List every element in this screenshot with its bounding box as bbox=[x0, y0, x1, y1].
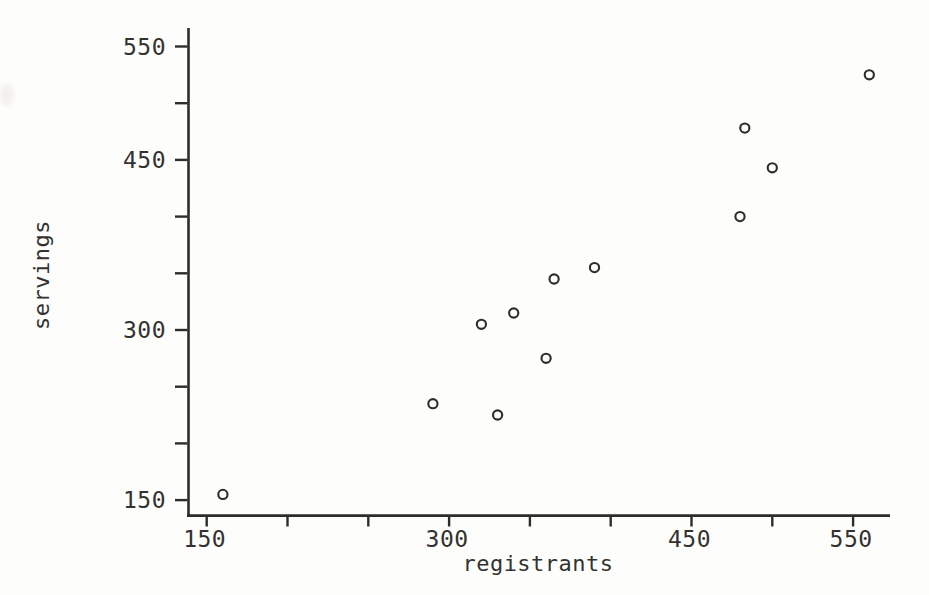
scatter-plot-figure: 150300450550 150300450550 registrants se… bbox=[0, 0, 929, 595]
x-tick-label-450: 450 bbox=[668, 526, 711, 552]
y-axis-tick-labels: 150300450550 bbox=[123, 34, 166, 514]
x-axis-ticks bbox=[207, 516, 853, 527]
x-tick-label-300: 300 bbox=[426, 526, 469, 552]
data-point-10 bbox=[768, 163, 777, 172]
x-axis-title: registrants bbox=[462, 551, 613, 576]
y-tick-label-150: 150 bbox=[123, 487, 166, 513]
data-point-11 bbox=[865, 70, 874, 79]
data-point-1 bbox=[428, 399, 437, 408]
data-point-0 bbox=[218, 490, 227, 499]
y-tick-label-300: 300 bbox=[123, 317, 166, 343]
y-tick-label-550: 550 bbox=[123, 34, 166, 60]
axes bbox=[187, 28, 890, 517]
data-point-9 bbox=[740, 124, 749, 133]
data-point-8 bbox=[735, 212, 744, 221]
scan-artifact bbox=[0, 84, 14, 106]
data-points bbox=[218, 70, 874, 499]
x-tick-label-150: 150 bbox=[183, 526, 226, 552]
data-point-7 bbox=[590, 263, 599, 272]
scatter-plot-canvas: 150300450550 150300450550 registrants se… bbox=[0, 0, 929, 595]
data-point-5 bbox=[542, 354, 551, 363]
y-tick-label-450: 450 bbox=[123, 147, 166, 173]
x-axis-tick-labels: 150300450550 bbox=[183, 526, 872, 552]
x-tick-label-550: 550 bbox=[830, 526, 873, 552]
data-point-3 bbox=[477, 320, 486, 329]
data-point-2 bbox=[493, 410, 502, 419]
y-axis-title: servings bbox=[29, 220, 54, 330]
y-axis-ticks bbox=[175, 47, 188, 501]
data-point-4 bbox=[509, 308, 518, 317]
data-point-6 bbox=[550, 274, 559, 283]
